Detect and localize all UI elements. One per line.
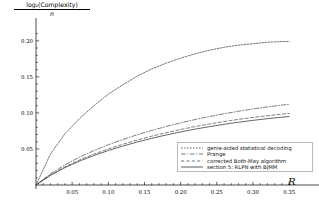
y-tick-label: 0.10	[9, 110, 33, 116]
chart-root: log₂(Complexity) n R 0.050.100.150.20 0.…	[0, 0, 319, 213]
y-axis-label: log₂(Complexity) n	[14, 2, 90, 17]
x-tick-label: 0.15	[132, 189, 156, 195]
legend-item-label: corrected Both-May algorithm	[207, 158, 286, 164]
x-tick-label: 0.30	[241, 189, 265, 195]
x-tick-label: 0.05	[60, 189, 84, 195]
legend-item: genie-aided statistical decoding	[181, 145, 309, 151]
x-tick-label: 0.20	[169, 189, 193, 195]
legend-line-swatch	[181, 158, 203, 164]
legend-item-label: section 5: RLPN with BJMM	[207, 164, 277, 170]
y-axis-label-denominator: n	[14, 10, 90, 17]
y-tick-label: 0.05	[9, 146, 33, 152]
legend-item: corrected Both-May algorithm	[181, 158, 309, 164]
y-axis-label-numerator: log₂(Complexity)	[14, 2, 90, 9]
y-tick-label: 0.20	[9, 38, 33, 44]
x-tick-label: 0.25	[205, 189, 229, 195]
legend-line-swatch	[181, 145, 203, 151]
legend-line-swatch	[181, 164, 203, 170]
x-tick-label: 0.35	[277, 189, 301, 195]
legend-item-label: genie-aided statistical decoding	[207, 145, 292, 151]
x-axis-label: R	[288, 176, 296, 187]
plot-area	[0, 0, 319, 213]
legend-item: Prange	[181, 151, 309, 157]
legend-item: section 5: RLPN with BJMM	[181, 164, 309, 170]
legend-line-swatch	[181, 151, 203, 157]
legend: genie-aided statistical decodingPrangeco…	[177, 142, 313, 172]
y-tick-label: 0.15	[9, 74, 33, 80]
x-tick-label: 0.10	[96, 189, 120, 195]
legend-item-label: Prange	[207, 151, 226, 157]
